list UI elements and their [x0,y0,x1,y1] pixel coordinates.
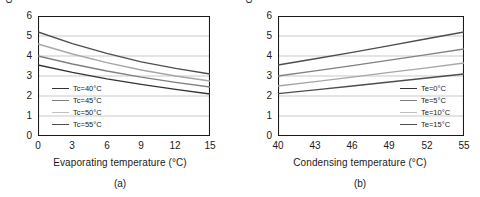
y-tick-b-5: 5 [256,31,272,41]
figure-two-panel-line-charts: Compression ratio 6 5 4 3 2 1 0 [0,0,480,197]
x-tick-b-2: 46 [340,141,364,151]
series-line-b-te0 [278,32,464,65]
chart-panel-b: Compression ratio 6 5 4 3 2 1 0 [240,0,480,197]
y-tick-a-4: 4 [16,51,32,61]
legend-a: Tc=40°C Tc=45°C Tc=50°C Tc=55°C [52,82,102,130]
legend-item-b-3: Te=15°C [400,118,450,130]
x-tick-a-2: 6 [95,141,119,151]
x-axis-label-a: Evaporating temperature (°C) [0,157,240,168]
x-tick-a-3: 9 [129,141,153,151]
legend-swatch-icon [52,112,69,113]
legend-item-b-0: Te=0°C [400,82,450,94]
y-tick-a-5: 5 [16,31,32,41]
y-tick-a-0: 0 [16,131,32,141]
legend-label-b-1: Te=5°C [421,96,446,105]
y-tick-b-4: 4 [256,51,272,61]
legend-label-a-0: Tc=40°C [73,84,102,93]
x-tick-b-0: 40 [266,141,290,151]
y-tick-a-3: 3 [16,71,32,81]
panel-caption-a: (a) [0,178,240,189]
y-tick-b-3: 3 [256,71,272,81]
x-tick-b-1: 43 [303,141,327,151]
legend-swatch-icon [52,124,69,125]
series-line-a-tc55 [38,32,210,74]
panel-caption-b: (b) [240,178,480,189]
legend-item-a-2: Tc=50°C [52,106,102,118]
legend-label-b-3: Te=15°C [421,120,450,129]
y-tick-b-6: 6 [256,11,272,21]
legend-label-b-0: Te=0°C [421,84,446,93]
y-axis-label-a: Compression ratio [2,0,16,26]
legend-swatch-icon [400,100,417,101]
legend-b: Te=0°C Te=5°C Te=10°C Te=15°C [400,82,450,130]
x-tick-a-4: 12 [163,141,187,151]
legend-label-b-2: Te=10°C [421,108,450,117]
legend-item-a-0: Tc=40°C [52,82,102,94]
legend-swatch-icon [400,124,417,125]
legend-label-a-3: Tc=55°C [73,120,102,129]
legend-item-b-1: Te=5°C [400,94,450,106]
y-tick-a-1: 1 [16,111,32,121]
legend-label-a-2: Tc=50°C [73,108,102,117]
y-tick-a-6: 6 [16,11,32,21]
legend-swatch-icon [52,100,69,101]
y-axis-label-b: Compression ratio [242,0,256,26]
series-line-b-te5 [278,49,464,76]
x-tick-a-0: 0 [26,141,50,151]
y-tick-b-0: 0 [256,131,272,141]
legend-label-a-1: Tc=45°C [73,96,102,105]
legend-item-b-2: Te=10°C [400,106,450,118]
x-tick-a-1: 3 [60,141,84,151]
legend-swatch-icon [52,88,69,89]
x-tick-b-3: 49 [377,141,401,151]
y-tick-b-1: 1 [256,111,272,121]
legend-item-a-3: Tc=55°C [52,118,102,130]
y-tick-a-2: 2 [16,91,32,101]
x-tick-b-5: 55 [452,141,476,151]
legend-item-a-1: Tc=45°C [52,94,102,106]
x-tick-a-5: 15 [198,141,222,151]
chart-panel-a: Compression ratio 6 5 4 3 2 1 0 [0,0,240,197]
legend-swatch-icon [400,112,417,113]
x-axis-label-b: Condensing temperature (°C) [240,157,480,168]
legend-swatch-icon [400,88,417,89]
x-tick-b-4: 52 [415,141,439,151]
y-tick-b-2: 2 [256,91,272,101]
